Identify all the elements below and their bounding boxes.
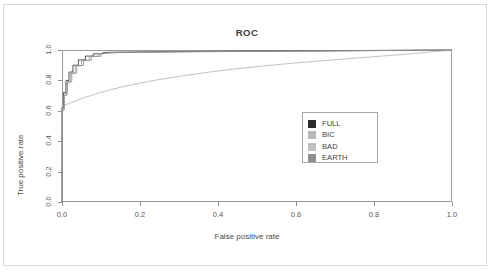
roc-curve-full: [62, 50, 452, 202]
x-tick-label: 0.4: [213, 210, 223, 219]
y-tick-mark: [58, 80, 62, 81]
y-tick-label: 1.0: [44, 42, 53, 58]
y-tick-label: 0.4: [44, 133, 53, 149]
legend-swatch-icon: [308, 131, 316, 139]
x-tick-label: 0.8: [369, 210, 379, 219]
y-tick-mark: [58, 50, 62, 51]
roc-curves: [62, 50, 452, 202]
y-axis-title-anchor: True positive rate: [18, 196, 19, 197]
x-tick-label: 1.0: [447, 210, 457, 219]
y-tick-label: 0.8: [44, 72, 53, 88]
x-tick-label: 0.6: [291, 210, 301, 219]
legend-label: BIC: [322, 131, 335, 139]
legend-label: BAD: [322, 143, 338, 151]
legend-item-full: FULL: [308, 118, 341, 129]
legend-swatch-icon: [308, 120, 316, 128]
y-tick-mark: [58, 172, 62, 173]
plot-area: [62, 50, 452, 202]
roc-curve-bic: [62, 50, 452, 202]
y-tick-label: 0.6: [44, 102, 53, 118]
roc-curve-earth: [62, 50, 452, 202]
y-tick-label: 0.0: [44, 194, 53, 210]
x-tick-label: 0.2: [135, 210, 145, 219]
x-tick-mark: [296, 202, 297, 206]
x-tick-label: 0.0: [57, 210, 67, 219]
y-tick-mark: [58, 111, 62, 112]
legend-swatch-icon: [308, 154, 316, 162]
x-tick-mark: [452, 202, 453, 206]
legend-item-earth: EARTH: [308, 153, 348, 164]
chart-title: ROC: [0, 27, 494, 38]
x-tick-mark: [218, 202, 219, 206]
legend-item-bad: BAD: [308, 141, 338, 152]
roc-chart-figure: ROC 0.00.20.40.60.81.0 0.00.20.40.60.81.…: [0, 0, 494, 273]
y-axis-title: True positive rate: [16, 180, 25, 196]
x-tick-mark: [62, 202, 63, 206]
legend-box: FULLBICBADEARTH: [302, 112, 378, 163]
legend-item-bic: BIC: [308, 130, 335, 141]
y-tick-mark: [58, 141, 62, 142]
legend-label: FULL: [322, 120, 341, 128]
roc-curve-bad: [62, 50, 452, 202]
y-tick-label: 0.2: [44, 163, 53, 179]
x-tick-mark: [140, 202, 141, 206]
legend-swatch-icon: [308, 143, 316, 151]
x-tick-mark: [374, 202, 375, 206]
x-axis-title: False positive rate: [0, 232, 494, 241]
legend-label: EARTH: [322, 154, 348, 162]
